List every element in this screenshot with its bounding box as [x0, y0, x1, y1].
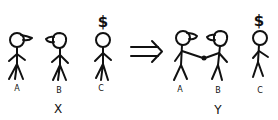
head [214, 31, 227, 46]
group-caption-y: Y [213, 103, 222, 117]
left-figure-a: A [9, 33, 32, 93]
head [53, 33, 66, 48]
head [253, 31, 267, 45]
legs [253, 62, 263, 77]
legs [53, 65, 66, 80]
figure-label: A [177, 85, 183, 94]
dollar-sign-icon: $ [98, 13, 108, 31]
legs [174, 65, 187, 80]
right-figure-c: $ C [253, 12, 268, 95]
arms [253, 51, 268, 58]
right-figure-b: B [205, 31, 227, 95]
cap-icon [187, 33, 197, 39]
implies-arrow-icon [131, 41, 162, 62]
legs [9, 64, 23, 79]
head [96, 33, 110, 47]
figure-label: A [14, 84, 20, 93]
legs [212, 65, 222, 80]
legs [96, 64, 108, 80]
arms [205, 53, 227, 62]
left-figure-c: $ C [95, 13, 111, 93]
figure-label: C [257, 86, 263, 95]
group-caption-x: X [54, 102, 62, 116]
body [218, 46, 220, 65]
left-figure-b: B [46, 33, 68, 95]
body [181, 45, 182, 65]
figure-label: B [56, 86, 62, 95]
figure-label: B [215, 86, 221, 95]
figure-label: C [98, 84, 104, 93]
arms [175, 51, 203, 61]
dollar-sign-icon: $ [254, 12, 264, 30]
right-figure-a: A [174, 31, 203, 94]
diagram-canvas: A B $ C X A B $ [0, 0, 278, 120]
